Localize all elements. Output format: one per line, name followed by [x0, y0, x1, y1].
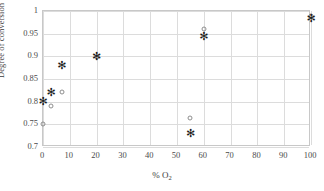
asterisk-glyph: ✻: [307, 13, 316, 22]
x-tick-label: 30: [118, 151, 127, 160]
asterisk-glyph: ✻: [57, 61, 66, 70]
data-point-asterisk: ✻: [186, 130, 195, 139]
data-point-circle: [49, 104, 54, 109]
data-point-circle: [59, 89, 64, 94]
x-tick-label: 70: [225, 151, 234, 160]
x-tick-label: 100: [304, 151, 317, 160]
x-tick-label: 90: [279, 151, 288, 160]
y-tick-label: 0.8: [12, 97, 38, 106]
x-tick-label: 80: [252, 151, 261, 160]
y-tick-label: 1: [12, 6, 38, 15]
scatter-chart-figure: Degree of conversion Si ✻✻✻✻✻✻✻ 0.70.750…: [0, 0, 324, 191]
data-point-asterisk: ✻: [57, 62, 66, 71]
data-point-circle: [188, 116, 193, 121]
plot-area: ✻✻✻✻✻✻✻: [42, 10, 310, 146]
data-point-asterisk: ✻: [307, 14, 316, 23]
y-tick-label: 0.9: [12, 51, 38, 60]
gridline-vertical: [311, 11, 312, 145]
x-axis-title: % O2: [0, 170, 324, 181]
asterisk-glyph: ✻: [186, 129, 195, 138]
asterisk-glyph: ✻: [47, 87, 56, 96]
y-tick-label: 0.7: [12, 142, 38, 151]
data-point-asterisk: ✻: [199, 33, 208, 42]
x-tick-label: 20: [91, 151, 100, 160]
gridline-horizontal: [43, 147, 309, 148]
data-points-layer: ✻✻✻✻✻✻✻: [43, 11, 309, 145]
x-tick-label: 50: [172, 151, 181, 160]
asterisk-glyph: ✻: [92, 51, 101, 60]
x-tick-label: 0: [40, 151, 44, 160]
y-tick-label: 0.95: [12, 29, 38, 38]
x-tick-label: 40: [145, 151, 154, 160]
data-point-asterisk: ✻: [92, 52, 101, 61]
data-point-asterisk: ✻: [39, 97, 48, 106]
x-axis-title-subscript: 2: [169, 174, 172, 181]
y-axis-title: Degree of conversion Si: [0, 0, 6, 78]
data-point-asterisk: ✻: [47, 88, 56, 97]
y-tick-label: 0.85: [12, 74, 38, 83]
x-axis-title-main: % O: [152, 170, 168, 180]
asterisk-glyph: ✻: [199, 32, 208, 41]
data-point-circle: [41, 122, 46, 127]
x-tick-label: 10: [65, 151, 74, 160]
x-tick-label: 60: [199, 151, 208, 160]
y-tick-label: 0.75: [12, 119, 38, 128]
